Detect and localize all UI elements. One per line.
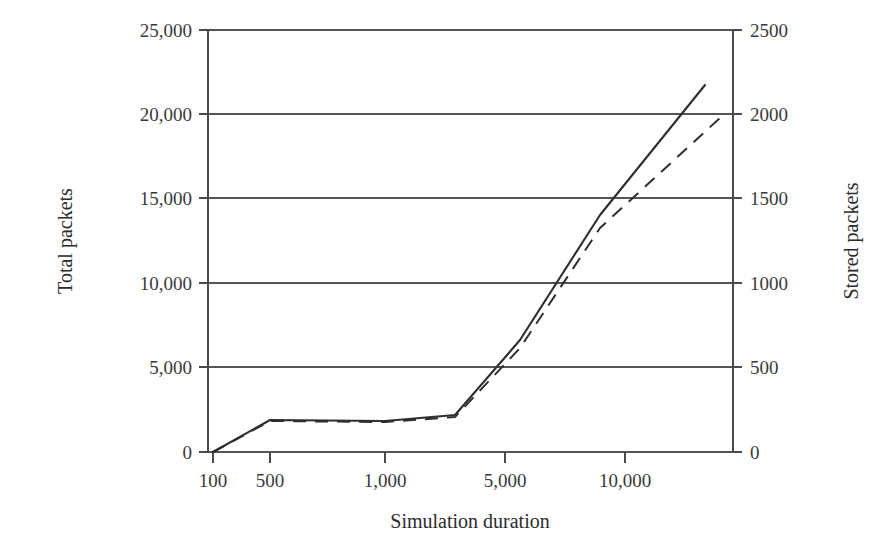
ytick-label-20000: 20,000	[140, 104, 192, 125]
x-axis-title: Simulation duration	[390, 510, 549, 532]
y2tick-label-2500: 2500	[750, 20, 788, 41]
y2tick-label-2000: 2000	[750, 104, 788, 125]
ytick-label-0: 0	[183, 442, 193, 463]
left-axis-tickmarks	[199, 30, 208, 452]
right-axis-tickmarks	[733, 30, 742, 452]
y2tick-label-1500: 1500	[750, 188, 788, 209]
y-axis-title-left: Total packets	[54, 188, 77, 294]
xtick-label-1000: 1,000	[364, 470, 407, 491]
ytick-label-5000: 5,000	[149, 357, 192, 378]
plot-area-background	[208, 30, 733, 452]
line-chart-canvas: 25,000 20,000 15,000 10,000 5,000 0 2500…	[0, 0, 892, 547]
xtick-label-100: 100	[199, 470, 228, 491]
y-axis-title-right: Stored packets	[840, 182, 863, 299]
y2tick-label-1000: 1000	[750, 273, 788, 294]
xtick-label-10000: 10,000	[599, 470, 651, 491]
x-axis-tickmarks	[213, 452, 625, 463]
y2tick-label-0: 0	[750, 442, 760, 463]
ytick-label-25000: 25,000	[140, 20, 192, 41]
left-axis-tick-labels: 25,000 20,000 15,000 10,000 5,000 0	[140, 20, 192, 463]
chart-figure: 25,000 20,000 15,000 10,000 5,000 0 2500…	[0, 0, 892, 547]
x-axis-tick-labels: 100 500 1,000 5,000 10,000	[199, 470, 651, 491]
y2tick-label-500: 500	[750, 357, 779, 378]
ytick-label-10000: 10,000	[140, 273, 192, 294]
ytick-label-15000: 15,000	[140, 188, 192, 209]
xtick-label-5000: 5,000	[484, 470, 527, 491]
right-axis-tick-labels: 2500 2000 1500 1000 500 0	[750, 20, 788, 463]
xtick-label-500: 500	[256, 470, 285, 491]
